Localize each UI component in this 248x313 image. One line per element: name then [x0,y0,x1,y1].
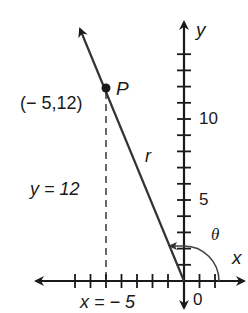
point-p-coordinates: (− 5,12) [20,94,83,112]
y-tick-label-10: 10 [199,110,218,127]
coordinate-diagram [0,0,248,313]
y-equals-12-label: y = 12 [30,180,80,198]
x-axis-label: x [232,248,242,267]
y-axis [177,22,191,308]
y-axis-label: y [196,20,206,39]
point-p-dot [102,84,111,93]
y-tick-label-5: 5 [199,191,208,208]
angle-theta-arc [172,246,219,281]
origin-label: 0 [193,291,202,308]
point-p-label: P [116,79,129,98]
ray-r-label: r [145,147,151,165]
x-axis [36,274,244,288]
angle-theta-label: θ [211,226,219,243]
terminal-ray-r [80,29,184,281]
x-equals-neg5-label: x = − 5 [80,293,135,311]
